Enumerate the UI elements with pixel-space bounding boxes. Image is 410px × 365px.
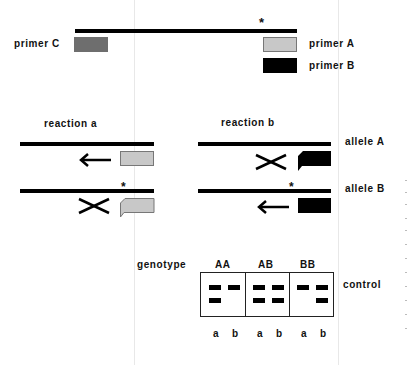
gel-lane-divider bbox=[289, 273, 290, 316]
primer-b-label: primer B bbox=[309, 60, 355, 71]
reaction-b-primer-b-mismatched bbox=[298, 151, 332, 171]
mutation-marker: * bbox=[121, 180, 126, 194]
reaction-b-primer-b-matched bbox=[298, 198, 331, 213]
primer-a-box bbox=[263, 37, 297, 52]
primer-c-box bbox=[74, 37, 108, 52]
genotype-aa-label: AA bbox=[215, 259, 231, 270]
mutation-marker: * bbox=[259, 15, 265, 30]
lane-label: a bbox=[257, 328, 263, 339]
lane-label: b bbox=[232, 328, 239, 339]
reaction-a-allele-a-strand bbox=[20, 142, 154, 146]
gel-band-bb-a-control bbox=[297, 285, 309, 290]
no-extension-cross-icon bbox=[78, 198, 110, 214]
scan-artifact-line bbox=[134, 0, 135, 365]
allele-b-label: allele B bbox=[345, 183, 385, 194]
gel-band-aa-a-control bbox=[209, 285, 221, 290]
extension-arrow-icon bbox=[78, 153, 112, 167]
genotype-bb-label: BB bbox=[300, 259, 316, 270]
allele-a-label: allele A bbox=[345, 136, 384, 147]
lane-label: b bbox=[320, 328, 327, 339]
gel-band-bb-b-product bbox=[316, 298, 328, 303]
reaction-a-primer-a-matched bbox=[120, 151, 154, 166]
lane-label: a bbox=[301, 328, 307, 339]
primer-a-label: primer A bbox=[309, 38, 355, 49]
mutation-marker: * bbox=[289, 180, 294, 194]
gel-band-aa-a-product bbox=[209, 298, 221, 303]
gel-band-bb-b-control bbox=[316, 285, 328, 290]
reaction-a-title: reaction a bbox=[44, 118, 97, 129]
primer-b-box bbox=[263, 58, 297, 73]
scan-artifact-line bbox=[338, 0, 339, 365]
gel-lane-divider bbox=[245, 273, 246, 316]
gel-band-aa-b-control bbox=[228, 285, 240, 290]
reaction-a-allele-b-strand bbox=[20, 189, 154, 193]
lane-label: b bbox=[276, 328, 283, 339]
reaction-b-allele-b-strand bbox=[198, 189, 331, 193]
no-extension-cross-icon bbox=[255, 154, 287, 170]
primer-c-label: primer C bbox=[14, 38, 60, 49]
control-label: control bbox=[343, 279, 381, 290]
genotype-label: genotype bbox=[137, 259, 186, 270]
lane-label: a bbox=[213, 328, 219, 339]
gel-band-ab-a-product bbox=[253, 298, 265, 303]
gel-band-ab-b-control bbox=[272, 285, 284, 290]
gel-band-ab-a-control bbox=[253, 285, 265, 290]
genotype-ab-label: AB bbox=[258, 259, 274, 270]
scan-edge-ticks bbox=[405, 180, 408, 340]
reaction-a-primer-a-mismatched bbox=[120, 198, 155, 218]
gel-band-ab-b-product bbox=[272, 298, 284, 303]
extension-arrow-icon bbox=[256, 200, 290, 214]
reaction-b-title: reaction b bbox=[221, 117, 275, 128]
reaction-b-allele-a-strand bbox=[198, 142, 331, 146]
gel-box bbox=[200, 272, 334, 317]
